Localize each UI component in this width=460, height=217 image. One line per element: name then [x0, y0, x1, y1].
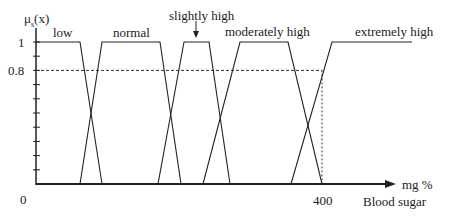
series-normal	[80, 42, 181, 184]
series-slightly-high	[158, 42, 230, 184]
x-tick-0: 0	[20, 193, 27, 206]
x-axis-arrow-icon	[385, 180, 396, 188]
label-moderately-high: moderately high	[225, 25, 310, 38]
series-extremely-high	[291, 42, 412, 184]
y-axis-label: μs(x)	[24, 12, 49, 29]
label-normal: normal	[113, 26, 150, 39]
series-low	[36, 42, 102, 184]
arrow-down-icon	[193, 31, 199, 38]
x-axis-unit: mg %	[402, 178, 433, 191]
series-moderately-high	[203, 42, 322, 184]
y-tick-0-8: 0.8	[8, 64, 24, 77]
label-slightly-high: slightly high	[169, 9, 234, 22]
label-low: low	[53, 26, 73, 39]
label-extremely-high: extremely high	[355, 25, 433, 38]
x-axis-label: Blood sugar	[363, 195, 426, 208]
x-tick-400: 400	[313, 194, 333, 207]
y-tick-1: 1	[18, 36, 25, 49]
